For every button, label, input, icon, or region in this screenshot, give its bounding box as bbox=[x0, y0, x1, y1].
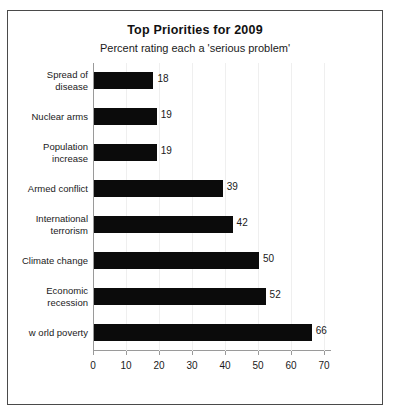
plot-area: 010203040506070 1819193942505266 bbox=[93, 63, 337, 351]
category-label: Spread ofdisease bbox=[16, 69, 88, 93]
bar-value-label: 19 bbox=[161, 145, 172, 156]
bar-row: 39 bbox=[93, 173, 333, 205]
category-label: Climate change bbox=[16, 255, 88, 267]
tick-mark bbox=[126, 351, 127, 355]
bar-value-label: 19 bbox=[161, 109, 172, 120]
x-tick-label: 10 bbox=[120, 360, 131, 371]
bar-row: 42 bbox=[93, 209, 333, 241]
tick-mark bbox=[324, 351, 325, 355]
x-tick-label: 40 bbox=[219, 360, 230, 371]
x-tick-label: 20 bbox=[153, 360, 164, 371]
category-axis-labels: Spread ofdiseaseNuclear armsPopulationin… bbox=[16, 63, 88, 351]
category-label: Populationincrease bbox=[16, 141, 88, 165]
x-tick-label: 70 bbox=[318, 360, 329, 371]
x-tick-label: 50 bbox=[252, 360, 263, 371]
bar-row: 19 bbox=[93, 137, 333, 169]
bar bbox=[94, 108, 157, 125]
bar bbox=[94, 252, 259, 269]
category-label: Armed conflict bbox=[16, 183, 88, 195]
bar bbox=[94, 144, 157, 161]
x-axis-line bbox=[93, 350, 331, 351]
bar-value-label: 42 bbox=[237, 217, 248, 228]
bar bbox=[94, 180, 223, 197]
category-label: Economicrecession bbox=[16, 285, 88, 309]
tick-mark bbox=[159, 351, 160, 355]
chart-subtitle: Percent rating each a 'serious problem' bbox=[8, 42, 382, 54]
tick-mark bbox=[93, 351, 94, 355]
chart-title: Top Priorities for 2009 bbox=[8, 23, 382, 37]
bar-value-label: 18 bbox=[157, 73, 168, 84]
bar-row: 18 bbox=[93, 65, 333, 97]
bar bbox=[94, 288, 266, 305]
tick-mark bbox=[291, 351, 292, 355]
tick-mark bbox=[192, 351, 193, 355]
bar-value-label: 52 bbox=[270, 289, 281, 300]
x-tick-label: 0 bbox=[90, 360, 96, 371]
category-label: Nuclear arms bbox=[16, 111, 88, 123]
bar-row: 66 bbox=[93, 317, 333, 349]
bar-value-label: 66 bbox=[316, 325, 327, 336]
bar bbox=[94, 72, 153, 89]
chart-frame: Top Priorities for 2009 Percent rating e… bbox=[7, 10, 383, 405]
bar-row: 52 bbox=[93, 281, 333, 313]
x-tick-label: 30 bbox=[186, 360, 197, 371]
bar-row: 19 bbox=[93, 101, 333, 133]
tick-mark bbox=[258, 351, 259, 355]
category-label: Internationalterrorism bbox=[16, 213, 88, 237]
bar-value-label: 50 bbox=[263, 253, 274, 264]
tick-mark bbox=[225, 351, 226, 355]
x-tick-label: 60 bbox=[285, 360, 296, 371]
bar-row: 50 bbox=[93, 245, 333, 277]
bar bbox=[94, 216, 233, 233]
category-label: w orld poverty bbox=[16, 327, 88, 339]
bar bbox=[94, 324, 312, 341]
bar-value-label: 39 bbox=[227, 181, 238, 192]
